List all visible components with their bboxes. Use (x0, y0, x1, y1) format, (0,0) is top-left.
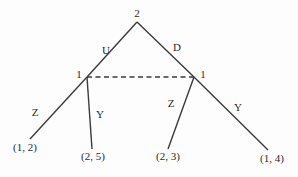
game-tree-diagram: UDZYZY211(1, 2)(2, 5)(2, 3)(1, 4) (0, 0, 298, 177)
edge-y (87, 77, 92, 149)
edge-d (137, 22, 194, 77)
edge-z (30, 77, 87, 139)
payoff-label: (1, 2) (13, 141, 37, 154)
edge-y (194, 77, 268, 150)
action-label: Z (168, 97, 175, 109)
edge-z (168, 77, 194, 149)
payoff-label: (2, 5) (81, 150, 105, 163)
game-tree-canvas: UDZYZY211(1, 2)(2, 5)(2, 3)(1, 4) (0, 0, 298, 177)
edge-u (87, 22, 137, 77)
action-label: D (173, 41, 181, 53)
action-label: Z (32, 106, 39, 118)
payoff-label: (2, 3) (156, 150, 180, 163)
player-label-right: 1 (200, 68, 206, 80)
action-label: Y (96, 108, 104, 120)
player-label-root: 2 (134, 7, 140, 19)
payoff-label: (1, 4) (260, 152, 284, 165)
action-label: U (102, 44, 110, 56)
action-label: Y (234, 101, 242, 113)
player-label-left: 1 (76, 68, 82, 80)
